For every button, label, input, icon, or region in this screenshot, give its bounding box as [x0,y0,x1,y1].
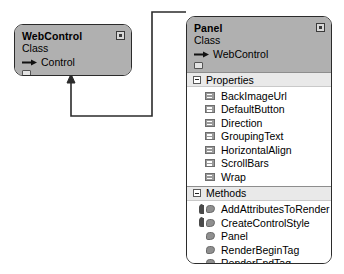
panel-base-class: WebControl [213,48,268,61]
class-box-webcontrol[interactable]: WebControl Class Control [14,24,132,76]
inheritance-arrow-icon [194,50,209,59]
property-icon [199,158,216,169]
method-icon [199,244,216,255]
section-header-methods[interactable]: Methods [187,186,331,201]
list-item[interactable]: CreateControlStyle [187,216,331,230]
list-item[interactable]: Panel [187,230,331,244]
collapse-button-icon[interactable] [316,23,325,32]
property-icon [199,171,216,182]
list-item[interactable]: RenderEndTag [187,257,331,265]
namespace-folder-icon [194,62,203,69]
panel-stereotype: Class [194,34,324,47]
section-label-methods: Methods [206,187,246,199]
method-icon [199,231,216,242]
webcontrol-base-row: Control [22,56,124,69]
inheritance-arrow-icon [22,58,37,67]
member-label: RenderBeginTag [221,244,299,256]
panel-header: Panel Class WebControl [187,17,331,72]
list-item[interactable]: Wrap [187,170,331,184]
webcontrol-title: WebControl [22,30,124,42]
property-icon [199,104,216,115]
properties-list: BackImageUrl DefaultButton Direction Gro… [187,87,331,186]
panel-title: Panel [194,22,324,34]
section-label-properties: Properties [206,74,254,86]
list-item[interactable]: ScrollBars [187,157,331,171]
member-label: ScrollBars [221,157,269,169]
diagram-canvas: WebControl Class Control Panel Class [0,0,344,274]
webcontrol-header: WebControl Class Control [15,25,131,75]
list-item[interactable]: DefaultButton [187,103,331,117]
webcontrol-base-class: Control [41,56,75,69]
class-box-panel[interactable]: Panel Class WebControl Properties BackIm… [186,16,332,264]
list-item[interactable]: RenderBeginTag [187,243,331,257]
member-label: HorizontalAlign [221,144,292,156]
override-marker-icon [199,218,204,227]
namespace-folder-icon [22,70,31,76]
list-item[interactable]: Direction [187,116,331,130]
member-label: Panel [221,230,248,242]
webcontrol-stereotype: Class [22,42,124,55]
property-icon [199,117,216,128]
property-icon [199,131,216,142]
list-item[interactable]: BackImageUrl [187,89,331,103]
property-icon [199,90,216,101]
expander-minus-icon[interactable] [193,76,201,84]
member-label: AddAttributesToRender [221,203,330,215]
member-label: DefaultButton [221,103,285,115]
methods-list: AddAttributesToRender CreateControlStyle… [187,201,331,265]
member-label: RenderEndTag [221,257,291,264]
method-icon [199,258,216,264]
expander-minus-icon[interactable] [193,189,201,197]
member-label: GroupingText [221,130,283,142]
list-item[interactable]: AddAttributesToRender [187,203,331,217]
list-item[interactable]: GroupingText [187,130,331,144]
property-icon [199,144,216,155]
section-header-properties[interactable]: Properties [187,72,331,87]
method-icon [199,204,216,215]
member-label: Direction [221,117,262,129]
override-marker-icon [199,205,204,214]
panel-base-row: WebControl [194,48,324,61]
list-item[interactable]: HorizontalAlign [187,143,331,157]
method-icon [199,217,216,228]
member-label: CreateControlStyle [221,217,310,229]
member-label: Wrap [221,171,246,183]
member-label: BackImageUrl [221,90,287,102]
collapse-button-icon[interactable] [116,31,125,40]
